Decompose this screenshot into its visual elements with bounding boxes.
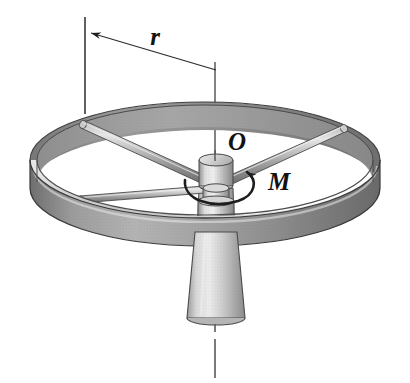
figure-canvas: r O M bbox=[0, 0, 410, 383]
hub-assembly bbox=[198, 150, 234, 222]
conical-pedestal bbox=[187, 232, 245, 325]
radius-label: r bbox=[150, 23, 160, 50]
center-point-label: O bbox=[228, 128, 246, 155]
flywheel-diagram: r O M bbox=[0, 0, 410, 383]
moment-label: M bbox=[267, 168, 291, 195]
hub-top-cap bbox=[199, 154, 233, 166]
